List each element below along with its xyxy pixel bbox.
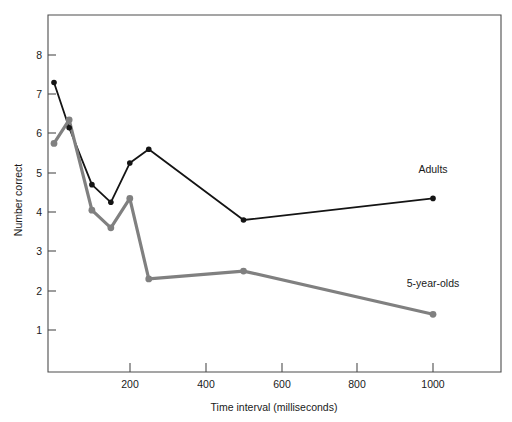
data-point [51, 140, 58, 147]
y-tick-label-1: 1 [36, 324, 42, 336]
y-axis-title: Number correct [12, 164, 24, 236]
data-point [66, 116, 73, 123]
series-label-adults: Adults [418, 163, 447, 175]
series-label-5-year-olds: 5-year-olds [407, 277, 460, 289]
data-point [146, 146, 152, 152]
x-tick-label-200: 200 [121, 378, 139, 390]
data-point [107, 224, 114, 231]
data-point [89, 207, 96, 214]
data-point [145, 276, 152, 283]
y-tick-label-3: 3 [36, 245, 42, 257]
x-tick-label-400: 400 [197, 378, 215, 390]
data-point [126, 195, 133, 202]
data-point [51, 80, 57, 86]
data-point [241, 217, 247, 223]
y-tick-label-8: 8 [36, 49, 42, 61]
data-point [430, 196, 436, 202]
data-point [66, 125, 72, 131]
y-tick-label-2: 2 [36, 285, 42, 297]
data-point [430, 311, 437, 318]
chart-figure: 8 7 6 5 4 3 2 1 200 400 600 800 [0, 0, 512, 422]
x-tick-label-800: 800 [348, 378, 366, 390]
y-tick-label-6: 6 [36, 127, 42, 139]
data-point [240, 268, 247, 275]
chart-background [0, 0, 512, 422]
x-tick-label-600: 600 [273, 378, 291, 390]
y-tick-label-7: 7 [36, 88, 42, 100]
x-tick-label-1000: 1000 [421, 378, 445, 390]
data-point [127, 160, 133, 166]
data-point [108, 200, 114, 206]
y-tick-label-4: 4 [36, 206, 42, 218]
x-axis-title: Time interval (milliseconds) [211, 401, 338, 413]
line-chart: 8 7 6 5 4 3 2 1 200 400 600 800 [0, 0, 512, 422]
data-point [89, 182, 95, 188]
y-tick-label-5: 5 [36, 167, 42, 179]
